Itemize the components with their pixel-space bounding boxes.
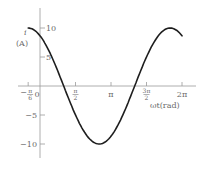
y-tick-label: −5 xyxy=(25,111,37,120)
svg-text:2: 2 xyxy=(74,94,78,101)
y-tick-label: −10 xyxy=(20,140,37,149)
x-tick-label: 2π xyxy=(177,90,187,99)
svg-text:π: π xyxy=(74,87,78,94)
x-axis-label: ωt(rad) xyxy=(150,101,180,110)
svg-text:2: 2 xyxy=(145,94,149,101)
x-tick-label: π xyxy=(108,90,113,99)
x-tick-label: −π6 xyxy=(20,87,33,101)
x-ticks: −π60π2π3π22π xyxy=(20,82,187,101)
y-axis-label-unit: (A) xyxy=(16,39,28,48)
svg-text:π: π xyxy=(28,87,32,94)
axes xyxy=(18,8,196,158)
x-tick-label: 0 xyxy=(34,90,39,99)
x-tick-label: 3π2 xyxy=(143,87,151,101)
sinusoid-chart: −π60π2π3π22π 105−5−10 i (A) ωt(rad) xyxy=(0,0,207,170)
y-axis-label-symbol: i xyxy=(24,28,27,37)
y-tick-label: 10 xyxy=(46,24,56,33)
minus-sign: − xyxy=(20,88,27,97)
x-tick-label: π2 xyxy=(73,87,79,101)
svg-text:6: 6 xyxy=(28,94,32,101)
svg-text:3π: 3π xyxy=(143,87,151,94)
